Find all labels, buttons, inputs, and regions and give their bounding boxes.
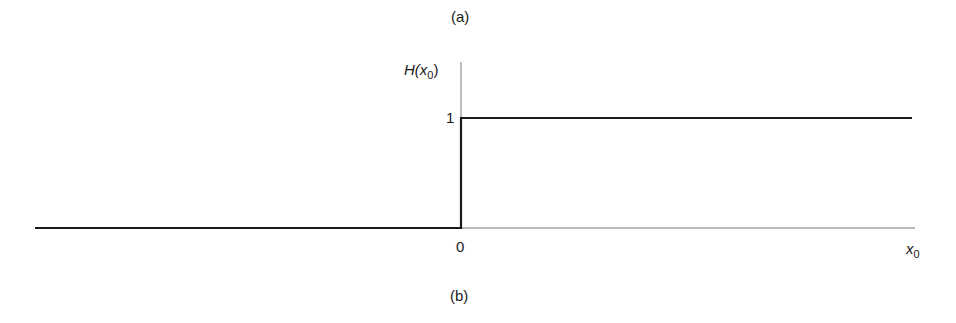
y-tick-1: 1 — [446, 109, 454, 126]
x-axis-label-sub: 0 — [914, 248, 920, 260]
y-axis-label-close: ) — [433, 61, 438, 78]
x-axis-label: x0 — [906, 240, 920, 260]
x-axis-label-var: x — [906, 240, 914, 257]
caption-b: (b) — [450, 287, 468, 304]
x-tick-0: 0 — [456, 238, 464, 255]
y-axis-label: H(x0) — [404, 61, 438, 81]
title-a: (a) — [451, 8, 469, 25]
step-curve — [35, 118, 912, 228]
step-function-plot — [0, 0, 956, 323]
y-axis-label-func: H( — [404, 61, 420, 78]
